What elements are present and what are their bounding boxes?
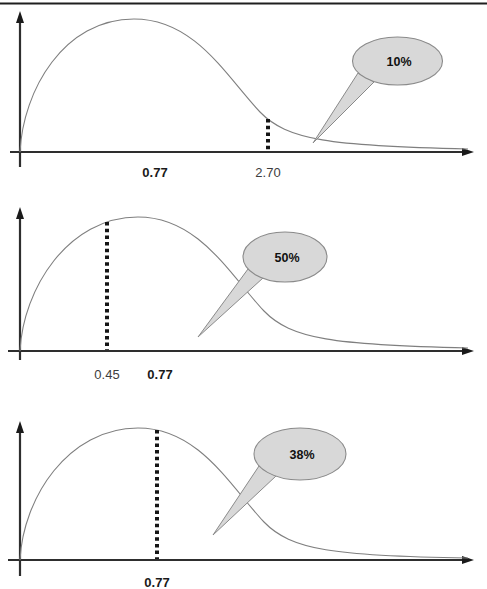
y-axis-arrow-icon: [16, 11, 24, 23]
chart-2-x-label-045: 0.45: [94, 367, 119, 382]
chart-2-x-axis: [8, 347, 474, 355]
chart-3-x-label-077: 0.77: [144, 575, 169, 589]
chart-1-x-axis: [10, 148, 474, 156]
y-axis-arrow-icon: [16, 207, 24, 219]
chart-1-x-label-077: 0.77: [142, 165, 167, 180]
chart-1: 0.77 2.70 10%: [10, 11, 474, 180]
chart-3-callout: 38%: [213, 428, 346, 535]
figure-canvas: 0.77 2.70 10% 0.45 0.77: [0, 0, 487, 589]
chart-2-y-axis: [16, 207, 24, 360]
chart-2-x-label-077: 0.77: [147, 367, 172, 382]
chart-1-x-label-270: 2.70: [255, 165, 280, 180]
chart-3-callout-label: 38%: [289, 448, 314, 462]
chart-1-y-axis: [16, 11, 24, 167]
chart-2-callout: 50%: [198, 232, 327, 337]
chart-1-callout: 10%: [313, 37, 443, 143]
chart-2-callout-label: 50%: [274, 251, 299, 265]
x-axis-arrow-icon: [462, 556, 474, 564]
chart-3: 0.77 38%: [8, 421, 474, 589]
chart-1-callout-tail: [313, 73, 374, 143]
figure-page: 0.77 2.70 10% 0.45 0.77: [0, 0, 487, 589]
y-axis-arrow-icon: [16, 421, 24, 433]
chart-1-callout-label: 10%: [386, 55, 411, 69]
chart-2: 0.45 0.77 50%: [8, 207, 474, 382]
chart-3-x-axis: [8, 556, 474, 564]
chart-2-callout-tail: [198, 269, 263, 337]
